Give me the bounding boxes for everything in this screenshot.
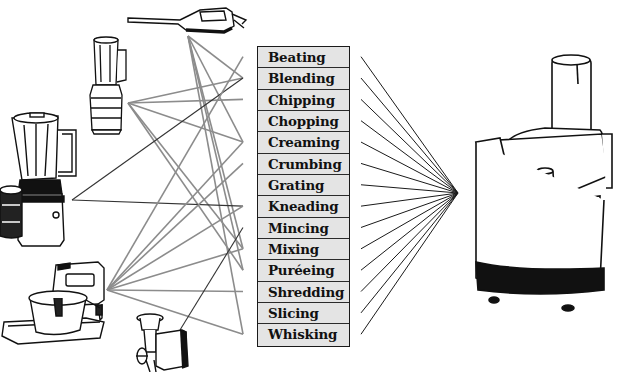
- task-kneading: Kneading: [258, 196, 349, 217]
- task-blending: Blending: [258, 68, 349, 89]
- task-whisking: Whisking: [258, 324, 349, 345]
- task-slicing: Slicing: [258, 303, 349, 324]
- task-mixing: Mixing: [258, 239, 349, 260]
- task-grating: Grating: [258, 175, 349, 196]
- task-crumbing: Crumbing: [258, 154, 349, 175]
- appliance-task-diagram: Beating Blending Chipping Chopping Cream…: [0, 0, 618, 372]
- task-chopping: Chopping: [258, 111, 349, 132]
- task-chipping: Chipping: [258, 90, 349, 111]
- task-beating: Beating: [258, 47, 349, 68]
- task-creaming: Creaming: [258, 132, 349, 153]
- task-shredding: Shredding: [258, 282, 349, 303]
- task-pureeing: Puréeing: [258, 260, 349, 281]
- task-list: Beating Blending Chipping Chopping Cream…: [257, 46, 350, 347]
- task-mincing: Mincing: [258, 218, 349, 239]
